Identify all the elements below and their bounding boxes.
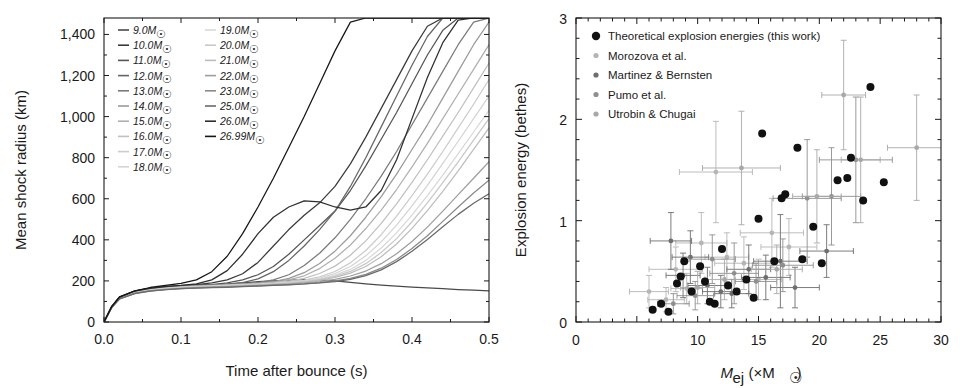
y-tick-label: 2 bbox=[559, 112, 567, 128]
marker bbox=[699, 241, 704, 246]
marker bbox=[669, 239, 674, 244]
y-axis-title: Explosion energy (bethes) bbox=[512, 83, 529, 257]
x-axis-title-paren: (×M bbox=[749, 364, 775, 381]
legend-item-label: 14.0M bbox=[133, 100, 162, 112]
x-tick-label: 0.0 bbox=[94, 331, 114, 347]
data-point bbox=[887, 95, 945, 200]
explosion-energy-panel: 012301015202530Explosion energy (bethes)… bbox=[500, 0, 968, 388]
marker bbox=[914, 145, 919, 150]
data-point bbox=[742, 275, 750, 283]
data-point bbox=[689, 235, 735, 284]
legend-item: 9.0M☉ bbox=[118, 24, 166, 40]
data-point bbox=[701, 277, 709, 285]
marker bbox=[695, 285, 700, 290]
x-axis-title: Time after bounce (s) bbox=[226, 362, 368, 379]
legend-item-label: 17.0M bbox=[133, 146, 162, 158]
solar-mass-symbol: ☉ bbox=[156, 28, 166, 40]
solar-mass-symbol: ☉ bbox=[162, 119, 172, 131]
legend-item: Pumo et al. bbox=[593, 89, 666, 101]
legend: 9.0M☉10.0M☉11.0M☉12.0M☉13.0M☉14.0M☉15.0M… bbox=[118, 24, 265, 176]
x-tick-label: 0.2 bbox=[248, 331, 268, 347]
legend-item: 19.0M☉ bbox=[205, 24, 259, 40]
y-axis-title: Mean shock radius (km) bbox=[12, 90, 29, 250]
legend-item: 22.0M☉ bbox=[205, 70, 259, 86]
legend-item: 11.0M☉ bbox=[118, 54, 171, 70]
solar-mass-symbol: ☉ bbox=[249, 73, 259, 85]
legend-item: Theoretical explosion energies (this wor… bbox=[592, 30, 821, 42]
solar-mass-symbol: ☉ bbox=[162, 104, 172, 116]
solar-mass-symbol: ☉ bbox=[162, 164, 172, 176]
legend-item: Utrobin & Chugai bbox=[593, 108, 695, 120]
data-point bbox=[847, 154, 855, 162]
x-axis-title-close: ) bbox=[797, 364, 802, 381]
data-point bbox=[859, 196, 867, 204]
legend: Theoretical explosion energies (this wor… bbox=[592, 30, 821, 120]
marker bbox=[858, 157, 863, 162]
y-tick-label: 1 bbox=[559, 214, 567, 230]
solar-mass-symbol: ☉ bbox=[162, 43, 172, 55]
data-point bbox=[680, 257, 688, 265]
solar-mass-symbol: ☉ bbox=[249, 119, 259, 131]
solar-mass-symbol: ☉ bbox=[249, 28, 259, 40]
marker bbox=[769, 230, 774, 235]
x-axis: 01015202530 bbox=[572, 18, 949, 348]
legend-item-label: 11.0M bbox=[133, 54, 162, 66]
legend-item-label: 16.0M bbox=[133, 130, 162, 142]
marker bbox=[714, 170, 719, 175]
solar-mass-symbol: ☉ bbox=[161, 58, 171, 70]
data-point bbox=[755, 215, 763, 223]
y-tick-label: 600 bbox=[72, 191, 96, 207]
legend-item: 25.0M☉ bbox=[205, 100, 259, 116]
marker bbox=[739, 166, 744, 171]
data-point bbox=[740, 198, 803, 267]
data-point bbox=[781, 190, 789, 198]
marker bbox=[824, 249, 829, 254]
shock-radius-panel: 02004006008001,0001,2001,4000.00.10.20.3… bbox=[0, 0, 500, 388]
solar-mass-symbol: ☉ bbox=[255, 134, 265, 146]
figure-root: 02004006008001,0001,2001,4000.00.10.20.3… bbox=[0, 0, 968, 388]
data-point bbox=[818, 259, 826, 267]
legend-item: 21.0M☉ bbox=[205, 54, 259, 70]
marker bbox=[710, 257, 715, 262]
y-tick-label: 1,200 bbox=[60, 68, 95, 84]
legend-item: 23.0M☉ bbox=[205, 85, 259, 101]
data-point bbox=[664, 308, 672, 316]
solar-mass-symbol: ☉ bbox=[162, 73, 172, 85]
x-axis-title: Mej(×M☉) bbox=[721, 364, 802, 386]
legend-item-label: Utrobin & Chugai bbox=[608, 108, 696, 120]
x-tick-label: 20 bbox=[812, 332, 828, 348]
legend-item: 12.0M☉ bbox=[118, 70, 172, 86]
marker bbox=[793, 285, 798, 290]
legend-item-label: 18.0M bbox=[133, 161, 162, 173]
data-point bbox=[771, 267, 820, 308]
scatter-series bbox=[630, 121, 817, 312]
data-point bbox=[649, 306, 657, 314]
y-tick-label: 400 bbox=[72, 232, 96, 248]
solar-mass-symbol: ☉ bbox=[162, 134, 172, 146]
data-point bbox=[880, 178, 888, 186]
marker bbox=[774, 267, 779, 272]
x-axis-title-subscript: ej bbox=[733, 369, 745, 386]
data-point bbox=[834, 176, 842, 184]
shock-radius-curve bbox=[104, 194, 489, 322]
marker bbox=[841, 93, 846, 98]
legend-item-label: 12.0M bbox=[133, 70, 162, 82]
x-tick-label: 10 bbox=[690, 332, 706, 348]
data-point bbox=[866, 83, 874, 91]
marker bbox=[754, 279, 759, 284]
x-tick-label: 30 bbox=[933, 332, 949, 348]
y-tick-label: 1,400 bbox=[60, 26, 95, 42]
legend-item-label: 21.0M bbox=[219, 54, 249, 66]
data-point bbox=[696, 262, 704, 270]
legend-item: Morozova et al. bbox=[593, 50, 686, 62]
legend-marker bbox=[593, 111, 598, 116]
data-point bbox=[677, 272, 685, 280]
solar-mass-symbol: ☉ bbox=[249, 104, 259, 116]
marker bbox=[787, 245, 792, 250]
legend-item: 18.0M☉ bbox=[118, 161, 172, 177]
legend-item-label: 22.0M bbox=[219, 70, 249, 82]
x-tick-label: 0.5 bbox=[479, 331, 499, 347]
legend-item-label: Pumo et al. bbox=[608, 89, 666, 101]
legend-item: 15.0M☉ bbox=[118, 115, 172, 131]
x-tick-label: 0.4 bbox=[402, 331, 422, 347]
